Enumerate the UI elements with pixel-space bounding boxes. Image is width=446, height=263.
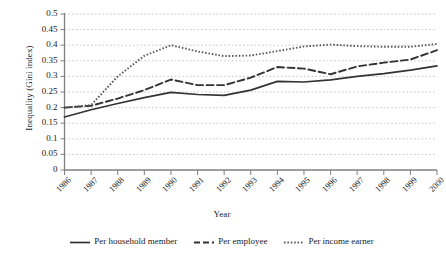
legend-label: Per income earner xyxy=(308,236,373,246)
legend-item: Per employee xyxy=(194,236,267,246)
axis-ticks xyxy=(61,14,438,175)
series-lines xyxy=(65,44,438,117)
axis-lines xyxy=(65,13,438,170)
chart-legend: Per household memberPer employeePer inco… xyxy=(0,236,444,246)
y-axis-title: Inequality (Gini index) xyxy=(24,18,34,158)
x-axis-title: Year xyxy=(0,209,444,219)
legend-label: Per employee xyxy=(218,236,267,246)
legend-swatch-dashed xyxy=(194,238,214,245)
legend-item: Per household member xyxy=(70,236,177,246)
y-axis-tick-label: 0.5 xyxy=(0,8,58,18)
series-line-0 xyxy=(65,66,438,117)
legend-swatch-solid xyxy=(70,238,90,245)
y-axis-tick-label: 0 xyxy=(0,164,58,174)
legend-item: Per income earner xyxy=(284,236,373,246)
legend-label: Per household member xyxy=(94,236,177,246)
gridlines xyxy=(65,14,438,154)
legend-swatch-dotted xyxy=(284,238,304,245)
series-line-1 xyxy=(65,50,438,107)
